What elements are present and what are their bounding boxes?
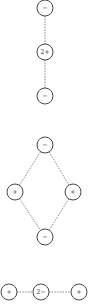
cation-node: 2+ — [37, 44, 53, 60]
ion-nodes: −2+−−++−+2−+ — [1, 0, 87, 300]
anion-node: − — [37, 88, 53, 104]
ion-charge-label: − — [42, 233, 47, 241]
anion-node: − — [37, 137, 53, 153]
anion-node: 2− — [33, 284, 49, 300]
cation-node: + — [65, 184, 81, 200]
cation-node: + — [7, 184, 23, 200]
bond-line — [19, 152, 40, 186]
bond-line — [49, 199, 69, 230]
bond-line — [19, 199, 40, 231]
anion-node: − — [37, 229, 53, 245]
cation-node: + — [1, 284, 17, 300]
ion-charge-label: − — [42, 141, 47, 149]
ion-charge-label: + — [70, 188, 75, 196]
ion-charge-label: 2− — [36, 288, 46, 296]
ion-charge-label: + — [76, 288, 81, 296]
ion-charge-label: + — [12, 188, 17, 196]
cation-node: + — [71, 284, 87, 300]
ion-charge-label: 2+ — [40, 48, 50, 56]
ion-charge-label: − — [42, 4, 47, 12]
bond-line — [49, 152, 69, 185]
ion-charge-label: − — [42, 92, 47, 100]
ion-charge-label: + — [6, 288, 11, 296]
anion-node: − — [37, 0, 53, 16]
ion-arrangement-diagram: −2+−−++−+2−+ — [0, 0, 91, 308]
